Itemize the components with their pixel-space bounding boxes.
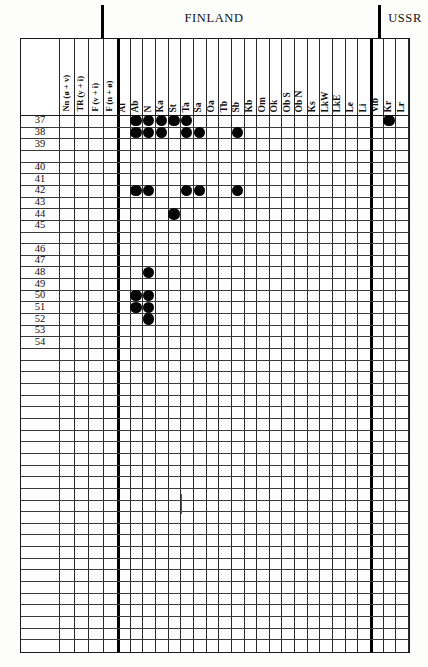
- presence-dot: [130, 290, 141, 301]
- row-label-41: 41: [21, 174, 59, 185]
- grid-column-line: [319, 39, 320, 652]
- column-header-lr: Lr: [396, 101, 406, 112]
- row-label-45: 45: [21, 220, 59, 231]
- grid-column-line: [59, 39, 60, 652]
- grid-row-line: [21, 348, 409, 349]
- presence-dot: [168, 115, 179, 126]
- column-header-n: N: [143, 105, 153, 112]
- grid-row-line: [21, 534, 409, 535]
- column-header-li: Li: [358, 103, 368, 112]
- region-divider-right-icon: [378, 5, 381, 38]
- column-header-ta: Ta: [181, 102, 191, 112]
- presence-dot: [130, 127, 141, 138]
- presence-dot: [232, 185, 243, 196]
- column-header-st: St: [168, 104, 178, 112]
- grid-row-line: [21, 138, 409, 139]
- grid-row-line: [21, 616, 409, 617]
- grid-column-line: [218, 39, 219, 652]
- grid-row-line: [21, 593, 409, 594]
- column-header-nn: Nn (ø + v): [62, 75, 71, 112]
- presence-dot: [143, 127, 154, 138]
- column-header-kr: Kr: [384, 100, 394, 112]
- grid-column-line: [168, 39, 169, 652]
- scan-artifact: [181, 494, 182, 514]
- row-label-48: 48: [21, 267, 59, 278]
- grid-row-line: [21, 115, 409, 116]
- presence-dot: [143, 267, 154, 278]
- grid-row-line: [21, 220, 409, 221]
- grid-column-line: [256, 39, 257, 652]
- grid-row-line: [21, 441, 409, 442]
- grid-row-line: [21, 546, 409, 547]
- grid-row-line: [21, 173, 409, 174]
- presence-dot: [143, 290, 154, 301]
- grid-row-line: [21, 639, 409, 640]
- presence-dot: [156, 127, 167, 138]
- row-label-43: 43: [21, 197, 59, 208]
- presence-dot: [181, 185, 192, 196]
- column-header-om: Om: [257, 97, 267, 112]
- column-header-vib: Vib: [371, 98, 381, 112]
- grid-row-line: [21, 290, 409, 291]
- column-header-ka: Ka: [156, 100, 166, 112]
- column-header-ok: Ok: [270, 99, 280, 112]
- grid-column-line: [395, 39, 396, 652]
- column-header-obn: Ob N: [295, 90, 305, 112]
- grid-row-line: [21, 488, 409, 489]
- presence-dot: [143, 185, 154, 196]
- row-label-50: 50: [21, 290, 59, 301]
- grid-row-line: [21, 453, 409, 454]
- grid-row-line: [21, 418, 409, 419]
- column-header-sa: Sa: [194, 102, 204, 112]
- grid-row-line: [21, 569, 409, 570]
- presence-dot: [143, 302, 154, 313]
- grid-column-line: [244, 39, 245, 652]
- grid-column-line: [74, 39, 75, 652]
- grid-row-line: [21, 336, 409, 337]
- grid-row-line: [21, 395, 409, 396]
- grid-row-line: [21, 500, 409, 501]
- row-label-40: 40: [21, 162, 59, 173]
- grid-column-line: [294, 39, 295, 652]
- grid-row-line: [21, 383, 409, 384]
- grid-column-line: [383, 39, 384, 652]
- grid-row-line: [21, 313, 409, 314]
- column-header-le: Le: [346, 101, 356, 112]
- grid-column-line: [269, 39, 270, 652]
- presence-dot: [194, 185, 205, 196]
- presence-dot: [130, 185, 141, 196]
- region-title-finland: FINLAND: [184, 11, 243, 26]
- row-label-49: 49: [21, 279, 59, 290]
- grid-divider-thick: [117, 39, 120, 652]
- presence-dot: [143, 115, 154, 126]
- grid-row-line: [21, 604, 409, 605]
- column-header-al: Al: [118, 103, 128, 113]
- grid-row-line: [21, 266, 409, 267]
- presence-dot: [181, 127, 192, 138]
- row-label-46: 46: [21, 244, 59, 255]
- grid-row-line: [21, 150, 409, 151]
- row-label-54: 54: [21, 337, 59, 348]
- row-label-52: 52: [21, 314, 59, 325]
- grid-row-line: [21, 325, 409, 326]
- row-label-37: 37: [21, 115, 59, 126]
- row-label-38: 38: [21, 127, 59, 138]
- grid-row-line: [21, 127, 409, 128]
- presence-dot: [168, 208, 179, 219]
- grid-column-line: [307, 39, 308, 652]
- grid-row-line: [21, 406, 409, 407]
- row-label-51: 51: [21, 302, 59, 313]
- grid-row-line: [21, 523, 409, 524]
- grid-column-line: [281, 39, 282, 652]
- presence-dot: [194, 127, 205, 138]
- region-divider-left-icon: [101, 5, 104, 38]
- grid-row-line: [21, 208, 409, 209]
- grid-inner: Nn (ø + v)TR (y + i)F (v + i)F (n + ø)Al…: [21, 39, 409, 652]
- region-title-ussr: USSR: [388, 11, 422, 26]
- presence-dot: [130, 302, 141, 313]
- grid-column-line: [332, 39, 333, 652]
- grid-row-line: [21, 430, 409, 431]
- column-header-sb: Sb: [232, 101, 242, 112]
- occurrence-grid: Nn (ø + v)TR (y + i)F (v + i)F (n + ø)Al…: [20, 38, 410, 653]
- column-header-ks: Ks: [308, 101, 318, 112]
